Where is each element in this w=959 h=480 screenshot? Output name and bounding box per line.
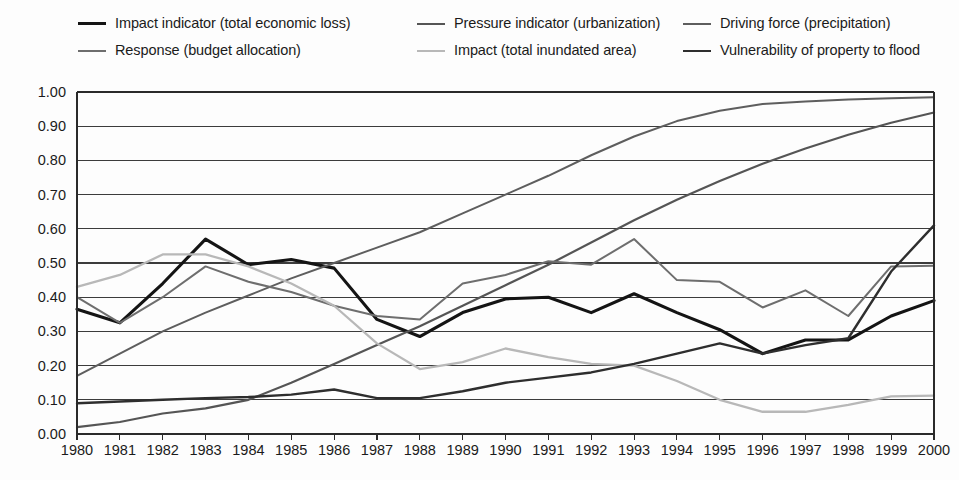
series-line-vulnerability_property_flood (77, 225, 934, 403)
y-tick-label: 0.90 (38, 118, 66, 134)
legend-label-driving_force_precipitation: Driving force (precipitation) (720, 16, 890, 31)
legend-label-pressure_urbanization: Pressure indicator (urbanization) (454, 16, 660, 31)
y-tick-label: 0.40 (38, 289, 66, 305)
x-tick-label: 1998 (832, 442, 864, 458)
legend-label-vulnerability_property_flood: Vulnerability of property to flood (720, 43, 920, 58)
y-tick-label: 0.20 (38, 358, 66, 374)
x-tick-label: 1982 (147, 442, 179, 458)
legend-label-impact_inundated_area: Impact (total inundated area) (454, 43, 637, 58)
chart-legend: Impact indicator (total economic loss)Pr… (0, 10, 959, 74)
data-series-group (77, 97, 934, 427)
legend-swatch-driving_force_precipitation (683, 23, 711, 25)
x-tick-label: 1980 (61, 442, 93, 458)
x-tick-label: 1986 (318, 442, 350, 458)
y-tick-label: 0.60 (38, 221, 66, 237)
x-tick-label: 1981 (104, 442, 136, 458)
series-line-pressure_urbanization (77, 113, 934, 428)
chart-page: Impact indicator (total economic loss)Pr… (0, 0, 959, 480)
x-tick-label: 1983 (189, 442, 221, 458)
legend-item-impact_economic_loss[interactable]: Impact indicator (total economic loss) (78, 10, 351, 37)
legend-row: Impact indicator (total economic loss)Pr… (0, 10, 959, 37)
y-tick-label: 0.70 (38, 187, 66, 203)
x-tick-label: 1990 (489, 442, 521, 458)
x-tick-label: 1988 (404, 442, 436, 458)
legend-item-vulnerability_property_flood[interactable]: Vulnerability of property to flood (683, 37, 920, 64)
y-tick-label: 0.30 (38, 323, 66, 339)
legend-item-impact_inundated_area[interactable]: Impact (total inundated area) (417, 37, 637, 64)
series-line-driving_force_precipitation (77, 97, 934, 376)
y-tick-label: 0.80 (38, 152, 66, 168)
x-tick-label: 1985 (275, 442, 307, 458)
y-axis-tick-labels: 0.000.100.200.300.400.500.600.700.800.90… (38, 84, 66, 442)
legend-swatch-impact_inundated_area (417, 50, 445, 52)
x-tick-label: 1993 (618, 442, 650, 458)
x-tick-label: 2000 (918, 442, 950, 458)
legend-swatch-pressure_urbanization (417, 23, 445, 25)
chart-plot-area: 0.000.100.200.300.400.500.600.700.800.90… (0, 74, 959, 480)
y-tick-label: 0.00 (38, 426, 66, 442)
x-tick-label: 1996 (746, 442, 778, 458)
x-tick-label: 1995 (704, 442, 736, 458)
series-line-impact_inundated_area (77, 254, 934, 411)
x-tick-label: 1994 (661, 442, 693, 458)
legend-swatch-response_budget_allocation (78, 50, 106, 52)
legend-item-response_budget_allocation[interactable]: Response (budget allocation) (78, 37, 301, 64)
legend-swatch-vulnerability_property_flood (683, 50, 711, 52)
x-tick-label: 1991 (532, 442, 564, 458)
legend-item-driving_force_precipitation[interactable]: Driving force (precipitation) (683, 10, 890, 37)
legend-item-pressure_urbanization[interactable]: Pressure indicator (urbanization) (417, 10, 660, 37)
x-tick-label: 1992 (575, 442, 607, 458)
legend-row: Response (budget allocation)Impact (tota… (0, 37, 959, 64)
x-tick-label: 1987 (361, 442, 393, 458)
x-axis-tick-labels: 1980198119821983198419851986198719881989… (61, 442, 950, 458)
series-line-response_budget_allocation (77, 239, 934, 323)
y-tick-label: 0.50 (38, 255, 66, 271)
x-tick-label: 1989 (447, 442, 479, 458)
legend-swatch-impact_economic_loss (78, 22, 106, 25)
x-tick-label: 1984 (232, 442, 264, 458)
legend-label-impact_economic_loss: Impact indicator (total economic loss) (115, 16, 351, 31)
y-tick-label: 0.10 (38, 392, 66, 408)
series-line-impact_economic_loss (77, 239, 934, 354)
y-tick-label: 1.00 (38, 84, 66, 100)
legend-label-response_budget_allocation: Response (budget allocation) (115, 43, 301, 58)
x-tick-label: 1999 (875, 442, 907, 458)
line-chart: 0.000.100.200.300.400.500.600.700.800.90… (0, 74, 959, 480)
x-tick-label: 1997 (789, 442, 821, 458)
